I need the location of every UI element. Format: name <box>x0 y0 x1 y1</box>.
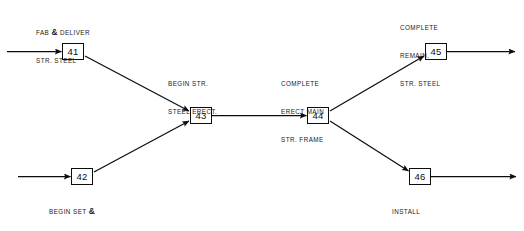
node-41-label: FAB & DELIVER STR. STEEL <box>36 10 90 84</box>
node-46-number: 46 <box>415 172 426 182</box>
node-42-label: BEGIN SET & GROUT BASE PLATES <box>49 189 95 231</box>
node-46-box[interactable]: 46 <box>409 168 431 185</box>
node-44-label-line2: ERECT MAIN <box>281 107 324 116</box>
node-43-label-line2: STEEL ERECT. <box>168 107 217 116</box>
node-45-label: COMPLETE REMAIN. STR. STEEL <box>400 5 441 106</box>
node-41-label-line1-pre: FAB <box>36 29 51 36</box>
node-42-label-line1-pre: BEGIN SET <box>49 208 89 215</box>
node-41-label-line2: STR. STEEL <box>36 56 90 65</box>
node-44-label: COMPLETE ERECT MAIN STR. FRAME <box>281 61 324 162</box>
ampersand-glyph: & <box>89 206 95 216</box>
node-43-label: BEGIN STR. STEEL ERECT. <box>168 61 217 135</box>
node-42-box[interactable]: 42 <box>71 168 93 185</box>
node-45-label-line2: REMAIN. <box>400 51 441 60</box>
node-42-number: 42 <box>77 172 88 182</box>
node-45-label-line1: COMPLETE <box>400 23 441 32</box>
edge-44-to-46 <box>330 121 409 171</box>
node-41-label-line1: FAB & DELIVER <box>36 28 90 37</box>
node-43-label-line1: BEGIN STR. <box>168 79 217 88</box>
node-45-label-line3: STR. STEEL <box>400 79 441 88</box>
node-42-label-line1: BEGIN SET & <box>49 207 95 216</box>
node-44-label-line1: COMPLETE <box>281 79 324 88</box>
node-46-label-line1: INSTALL <box>392 207 433 216</box>
network-diagram-canvas: 41 FAB & DELIVER STR. STEEL 42 BEGIN SET… <box>0 0 524 231</box>
node-41-label-line1-post: DELIVER <box>58 29 90 36</box>
node-46-label: INSTALL DECKING 2ND FLOOR <box>392 189 433 231</box>
node-44-label-line3: STR. FRAME <box>281 135 324 144</box>
